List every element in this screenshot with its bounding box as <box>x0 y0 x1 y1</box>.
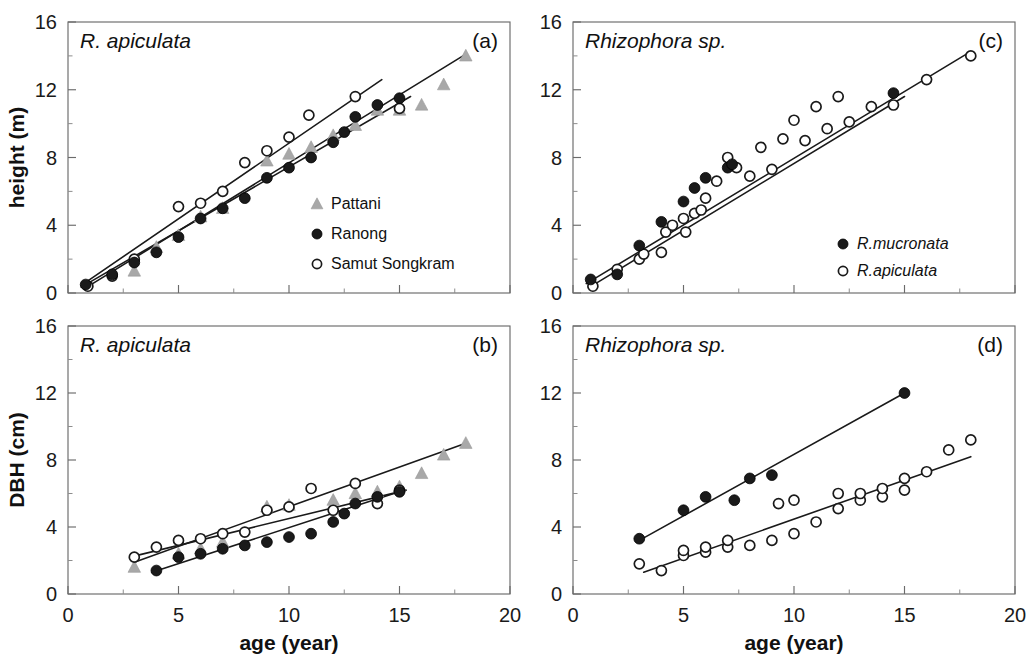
y-tick-label: 12 <box>35 79 57 101</box>
legend-marker-filled-circle <box>312 229 322 239</box>
y-tick-label: 12 <box>540 79 562 101</box>
data-point-open-circle <box>833 504 843 514</box>
data-point-open-circle <box>844 117 854 127</box>
fit-line-ranong <box>152 490 404 572</box>
data-point-open-circle <box>262 146 272 156</box>
data-point-filled-circle <box>612 269 623 280</box>
data-point-open-circle <box>218 529 228 539</box>
data-point-filled-circle <box>394 93 405 104</box>
fit-lines-a <box>81 54 466 288</box>
data-point-open-circle <box>833 489 843 499</box>
legend-marker-triangle <box>311 198 323 209</box>
data-point-filled-circle <box>195 548 206 559</box>
data-point-open-circle <box>922 467 932 477</box>
data-point-open-circle <box>712 176 722 186</box>
data-point-filled-circle <box>700 172 711 183</box>
data-point-open-circle <box>774 499 784 509</box>
y-tick-label: 16 <box>540 315 562 337</box>
y-tick-label: 12 <box>540 382 562 404</box>
data-point-open-circle <box>877 483 887 493</box>
data-point-open-circle <box>866 102 876 112</box>
data-point-open-circle <box>767 164 777 174</box>
data-point-open-circle <box>701 542 711 552</box>
data-point-triangle <box>415 98 428 110</box>
data-point-open-circle <box>778 134 788 144</box>
y-tick-label: 0 <box>46 282 57 304</box>
y-tick-label: 8 <box>46 147 57 169</box>
x-tick-label: 20 <box>499 604 521 626</box>
data-point-open-circle <box>756 142 766 152</box>
x-tick-label: 5 <box>173 604 184 626</box>
data-point-filled-circle <box>328 517 339 528</box>
x-tick-label: 15 <box>893 604 915 626</box>
data-point-open-circle <box>789 495 799 505</box>
y-tick-label: 4 <box>46 214 57 236</box>
data-point-open-circle <box>395 103 405 113</box>
data-point-filled-circle <box>129 257 140 268</box>
data-point-open-circle <box>855 489 865 499</box>
panel-letter-c: (c) <box>979 29 1004 52</box>
data-point-triangle <box>283 148 296 160</box>
data-point-filled-circle <box>284 162 295 173</box>
data-point-open-circle <box>745 540 755 550</box>
y-tick-label: 0 <box>46 583 57 605</box>
legend-label: R.apiculata <box>857 262 937 279</box>
data-point-open-circle <box>679 545 689 555</box>
y-axis-title-dbh: DBH (cm) <box>5 412 28 508</box>
data-point-filled-circle <box>372 100 383 111</box>
data-point-open-circle <box>701 193 711 203</box>
legend-marker-open-circle <box>312 259 321 268</box>
data-point-open-circle <box>304 110 314 120</box>
y-tick-label: 4 <box>46 516 57 538</box>
data-point-open-circle <box>129 552 139 562</box>
data-point-open-circle <box>350 478 360 488</box>
data-point-filled-circle <box>339 127 350 138</box>
x-tick-label: 0 <box>567 604 578 626</box>
panel-letter-b: (b) <box>472 333 498 356</box>
data-point-filled-circle <box>151 565 162 576</box>
data-point-open-circle <box>174 535 184 545</box>
fit-line-pattani <box>86 54 466 288</box>
data-point-open-circle <box>900 473 910 483</box>
data-point-filled-circle <box>239 540 250 551</box>
data-point-filled-circle <box>689 183 700 194</box>
data-point-filled-circle <box>80 279 91 290</box>
y-tick-label: 12 <box>35 382 57 404</box>
x-tick-label: 10 <box>783 604 805 626</box>
data-point-open-circle <box>174 202 184 212</box>
data-point-filled-circle <box>195 213 206 224</box>
data-point-filled-circle <box>888 88 899 99</box>
data-point-filled-circle <box>173 552 184 563</box>
data-point-open-circle <box>811 517 821 527</box>
data-point-triangle <box>415 467 428 479</box>
data-point-open-circle <box>196 534 206 544</box>
panel-frame-d <box>573 326 1015 594</box>
data-point-open-circle <box>328 505 338 515</box>
data-point-triangle <box>460 437 473 449</box>
y-tick-label: 8 <box>551 147 562 169</box>
data-point-triangle <box>437 78 450 90</box>
x-axis-title: age (year) <box>744 631 843 654</box>
data-point-open-circle <box>240 158 250 168</box>
x-tick-label: 0 <box>62 604 73 626</box>
x-tick-label: 15 <box>388 604 410 626</box>
data-point-filled-circle <box>744 473 755 484</box>
y-tick-label: 0 <box>551 583 562 605</box>
legend-label: Ranong <box>331 225 387 242</box>
data-point-filled-circle <box>372 491 383 502</box>
data-point-open-circle <box>656 247 666 257</box>
data-point-filled-circle <box>656 216 667 227</box>
data-point-open-circle <box>811 102 821 112</box>
data-point-filled-circle <box>339 508 350 519</box>
y-axis-title-height: height (m) <box>5 107 28 208</box>
legend-marker-open-circle <box>838 266 847 275</box>
data-point-filled-circle <box>678 505 689 516</box>
panel-letter-d: (d) <box>977 333 1003 356</box>
data-point-filled-circle <box>262 537 273 548</box>
data-point-filled-circle <box>899 388 910 399</box>
data-point-open-circle <box>656 566 666 576</box>
data-point-open-circle <box>922 75 932 85</box>
panel-title-c: Rhizophora sp. <box>585 29 726 52</box>
data-point-triangle <box>327 494 340 506</box>
data-point-filled-circle <box>107 269 118 280</box>
